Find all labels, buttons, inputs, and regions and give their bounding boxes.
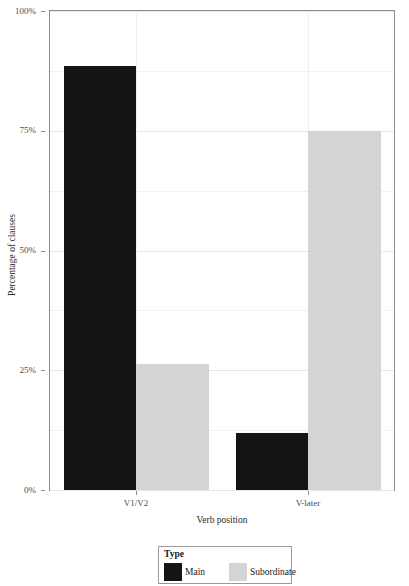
legend-swatch-subordinate [229, 563, 247, 581]
x-axis-title: Verb position [49, 515, 395, 525]
y-tick-label: 100% [15, 7, 36, 16]
bar-v1-v2-subordinate [136, 364, 209, 490]
x-tick-mark [308, 491, 309, 495]
gridline-major [50, 11, 394, 12]
bar-v-later-main [236, 433, 309, 490]
legend-swatch-main [164, 563, 182, 581]
legend-label-subordinate: Subordinate [250, 567, 296, 577]
bar-chart: Percentage of clauses 0%25%50%75%100% V1… [0, 0, 409, 586]
y-tick-mark [41, 251, 45, 252]
x-axis: V1/V2V-later [49, 491, 395, 515]
legend-label-main: Main [185, 567, 205, 577]
y-tick-label: 25% [20, 366, 37, 375]
y-tick-mark [41, 131, 45, 132]
y-tick-mark [41, 490, 45, 491]
y-tick-mark [41, 11, 45, 12]
x-tick-label: V-later [258, 499, 358, 508]
x-tick-label: V1/V2 [86, 499, 186, 508]
plot-area [50, 11, 394, 490]
y-tick-mark [41, 370, 45, 371]
plot-panel [49, 10, 395, 491]
bar-v-later-subordinate [308, 131, 381, 490]
y-tick-label: 0% [24, 486, 36, 495]
legend-title: Type [164, 549, 184, 559]
y-axis-title: Percentage of clauses [7, 155, 17, 355]
legend: Type MainSubordinate [158, 546, 292, 584]
x-tick-mark [136, 491, 137, 495]
y-tick-label: 75% [20, 126, 37, 135]
bar-v1-v2-main [64, 66, 137, 490]
y-axis: Percentage of clauses 0%25%50%75%100% [0, 10, 45, 491]
y-tick-label: 50% [20, 246, 37, 255]
